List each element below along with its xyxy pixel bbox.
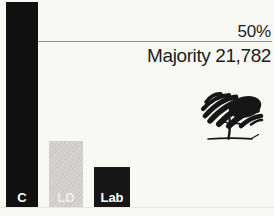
bar-conservative: C xyxy=(6,2,38,207)
bar-label-libdem: LD xyxy=(49,190,83,205)
majority-text: Majority 21,782 xyxy=(147,45,271,67)
bar-labour: Lab xyxy=(94,167,130,207)
election-result-graphic: C LD Lab 50% Majority 21,782 xyxy=(0,0,274,216)
chart-baseline xyxy=(0,207,274,208)
fifty-percent-label: 50% xyxy=(238,22,271,42)
conservative-tree-icon xyxy=(198,89,266,142)
bar-libdem: LD xyxy=(49,141,83,207)
bar-label-conservative: C xyxy=(6,190,38,205)
bar-label-labour: Lab xyxy=(94,190,130,205)
